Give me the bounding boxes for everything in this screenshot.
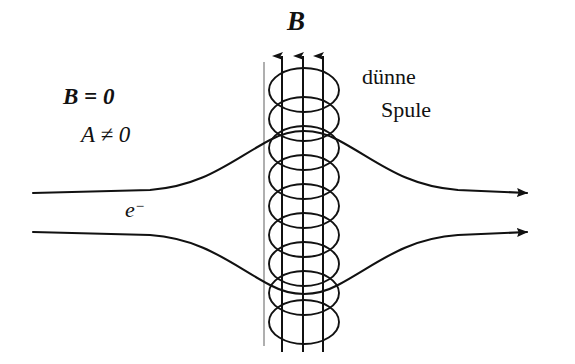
coil-label-line-1: dünne <box>362 66 416 88</box>
magnetic-field-label: B <box>287 8 305 35</box>
coil-label-line-2: Spule <box>381 99 431 121</box>
figure-canvas <box>0 0 575 364</box>
electron-symbol: e <box>125 197 135 222</box>
electron-label: e− <box>125 199 144 221</box>
field-zero-label: B = 0 <box>63 85 114 108</box>
electron-beam-lower <box>33 232 527 294</box>
magnetic-field-lines <box>282 56 323 352</box>
vector-potential-label: A ≠ 0 <box>81 123 130 146</box>
electron-charge-sign: − <box>135 198 144 214</box>
physics-figure: B B = 0 A ≠ 0 dünne Spule e− <box>0 0 575 364</box>
